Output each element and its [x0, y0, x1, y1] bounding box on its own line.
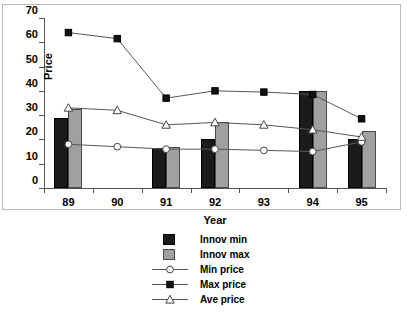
plot-area: 010203040506070 89909192939495 Price Yea… — [44, 18, 386, 188]
y-tick-label: 50 — [2, 53, 38, 65]
legend-label: Min price — [194, 264, 244, 275]
legend-item: Innov min — [150, 232, 300, 247]
x-tick — [191, 188, 192, 193]
y-tick-label: 20 — [2, 125, 38, 137]
x-tick-label: 91 — [146, 196, 186, 208]
chart-legend: Innov minInnov maxMin priceMax priceAve … — [150, 232, 300, 307]
marker-open-triangle — [211, 118, 219, 126]
legend-label: Max price — [194, 279, 246, 290]
x-tick — [44, 188, 45, 193]
marker-filled-square — [358, 116, 364, 122]
x-tick — [288, 188, 289, 193]
legend-swatch-icon — [163, 249, 175, 260]
legend-label: Ave price — [194, 294, 245, 305]
legend-label: Innov max — [194, 249, 249, 260]
y-tick-label: 60 — [2, 28, 38, 40]
x-tick — [239, 188, 240, 193]
x-tick — [337, 188, 338, 193]
x-tick-label: 95 — [342, 196, 382, 208]
marker-open-triangle — [64, 104, 72, 112]
marker-open-circle — [212, 146, 219, 153]
marker-open-circle — [309, 148, 316, 155]
y-tick-label: 30 — [2, 101, 38, 113]
legend-item: Max price — [150, 277, 300, 292]
chart-figure: 010203040506070 89909192939495 Price Yea… — [0, 0, 407, 315]
legend-item: Ave price — [150, 292, 300, 307]
legend-label: Innov min — [194, 234, 247, 245]
legend-key — [150, 277, 194, 292]
x-tick — [142, 188, 143, 193]
legend-item: Min price — [150, 262, 300, 277]
legend-key — [150, 232, 194, 247]
x-axis-title: Year — [44, 214, 386, 226]
x-tick-label: 89 — [48, 196, 88, 208]
legend-swatch-icon — [163, 234, 175, 245]
legend-key — [150, 262, 194, 277]
marker-open-circle — [260, 147, 267, 154]
legend-key — [150, 292, 194, 307]
legend-marker-icon — [150, 262, 194, 277]
line-series-group — [44, 18, 386, 188]
y-tick-label: 40 — [2, 77, 38, 89]
y-tick-label: 10 — [2, 150, 38, 162]
legend-key — [150, 247, 194, 262]
y-axis-title: Price — [42, 53, 54, 80]
marker-filled-square — [261, 89, 267, 95]
legend-marker-icon — [150, 277, 194, 292]
marker-filled-square — [163, 95, 169, 101]
marker-filled-square — [114, 35, 120, 41]
y-tick-label: 70 — [2, 4, 38, 16]
x-tick-label: 90 — [97, 196, 137, 208]
marker-filled-square — [310, 91, 316, 97]
legend-item: Innov max — [150, 247, 300, 262]
x-tick-label: 93 — [244, 196, 284, 208]
marker-filled-square — [212, 88, 218, 94]
marker-filled-square — [65, 29, 71, 35]
marker-open-circle — [65, 141, 72, 148]
y-tick-label: 0 — [2, 174, 38, 186]
x-tick-label: 94 — [293, 196, 333, 208]
x-axis-line — [44, 188, 386, 189]
marker-open-circle — [163, 146, 170, 153]
x-tick — [386, 188, 387, 193]
chart-title-cutoff — [0, 0, 407, 2]
legend-marker-icon — [150, 292, 194, 307]
line-max-price — [68, 33, 361, 119]
x-tick — [93, 188, 94, 193]
marker-open-circle — [114, 143, 121, 150]
x-tick-label: 92 — [195, 196, 235, 208]
